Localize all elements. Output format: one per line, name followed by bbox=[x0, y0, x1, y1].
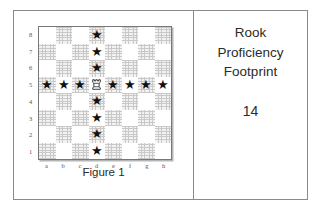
board-square-c1[interactable] bbox=[72, 143, 89, 160]
board-square-c8[interactable] bbox=[72, 27, 89, 44]
rank-label-8: 8 bbox=[24, 26, 37, 43]
board-square-b7[interactable] bbox=[56, 44, 73, 61]
board-square-d2[interactable]: ★ bbox=[89, 126, 106, 143]
board-square-e8[interactable] bbox=[105, 27, 122, 44]
board-square-h3[interactable] bbox=[155, 110, 172, 127]
star-marker-d3: ★ bbox=[91, 112, 103, 125]
board-square-h6[interactable] bbox=[155, 60, 172, 77]
star-marker-d7: ★ bbox=[91, 46, 103, 59]
board-square-e1[interactable] bbox=[105, 143, 122, 160]
rank-label-3: 3 bbox=[24, 110, 37, 127]
board-square-d7[interactable]: ★ bbox=[89, 44, 106, 61]
board-square-h2[interactable] bbox=[155, 126, 172, 143]
footprint-title-line-1: Rook bbox=[198, 23, 303, 43]
star-marker-c5: ★ bbox=[74, 79, 86, 92]
board-square-c5[interactable]: ★ bbox=[72, 77, 89, 94]
board-square-f6[interactable] bbox=[122, 60, 139, 77]
board-square-a3[interactable] bbox=[39, 110, 56, 127]
board-square-h5[interactable]: ★ bbox=[155, 77, 172, 94]
chessboard-block: 87654321 ★★★★★★★★★★★★★★ abcdefgh bbox=[24, 24, 186, 164]
board-square-g6[interactable] bbox=[138, 60, 155, 77]
board-square-b8[interactable] bbox=[56, 27, 73, 44]
board-square-e5[interactable]: ★ bbox=[105, 77, 122, 94]
board-square-c6[interactable] bbox=[72, 60, 89, 77]
footprint-title: RookProficiencyFootprint bbox=[198, 23, 303, 82]
star-marker-d8: ★ bbox=[91, 29, 103, 42]
board-square-c2[interactable] bbox=[72, 126, 89, 143]
chessboard: ★★★★★★★★★★★★★★ bbox=[38, 26, 172, 160]
board-square-a2[interactable] bbox=[39, 126, 56, 143]
board-square-a8[interactable] bbox=[39, 27, 56, 44]
board-square-h8[interactable] bbox=[155, 27, 172, 44]
star-marker-f5: ★ bbox=[124, 79, 136, 92]
board-square-b2[interactable] bbox=[56, 126, 73, 143]
white-rook-icon bbox=[90, 78, 103, 91]
board-square-h1[interactable] bbox=[155, 143, 172, 160]
board-square-d3[interactable]: ★ bbox=[89, 110, 106, 127]
rank-label-5: 5 bbox=[24, 76, 37, 93]
board-square-d8[interactable]: ★ bbox=[89, 27, 106, 44]
figure-caption: Figure 1 bbox=[14, 166, 193, 178]
board-square-f8[interactable] bbox=[122, 27, 139, 44]
footprint-title-line-2: Proficiency bbox=[198, 43, 303, 63]
board-square-f3[interactable] bbox=[122, 110, 139, 127]
board-square-e6[interactable] bbox=[105, 60, 122, 77]
board-square-f1[interactable] bbox=[122, 143, 139, 160]
star-marker-b5: ★ bbox=[58, 79, 70, 92]
star-marker-d6: ★ bbox=[91, 62, 103, 75]
rank-label-7: 7 bbox=[24, 43, 37, 60]
board-square-g4[interactable] bbox=[138, 93, 155, 110]
board-square-g1[interactable] bbox=[138, 143, 155, 160]
board-square-a4[interactable] bbox=[39, 93, 56, 110]
star-marker-d2: ★ bbox=[91, 128, 103, 141]
board-square-d6[interactable]: ★ bbox=[89, 60, 106, 77]
figure-card: 87654321 ★★★★★★★★★★★★★★ abcdefgh Figure … bbox=[13, 10, 308, 200]
rank-label-1: 1 bbox=[24, 143, 37, 160]
board-square-b6[interactable] bbox=[56, 60, 73, 77]
board-square-f5[interactable]: ★ bbox=[122, 77, 139, 94]
board-square-g7[interactable] bbox=[138, 44, 155, 61]
figure-panel: 87654321 ★★★★★★★★★★★★★★ abcdefgh Figure … bbox=[14, 11, 194, 199]
board-square-b5[interactable]: ★ bbox=[56, 77, 73, 94]
footprint-title-line-3: Footprint bbox=[198, 62, 303, 82]
board-square-c4[interactable] bbox=[72, 93, 89, 110]
board-square-e3[interactable] bbox=[105, 110, 122, 127]
board-square-f2[interactable] bbox=[122, 126, 139, 143]
board-square-c3[interactable] bbox=[72, 110, 89, 127]
board-square-g3[interactable] bbox=[138, 110, 155, 127]
rank-label-6: 6 bbox=[24, 60, 37, 77]
rank-label-4: 4 bbox=[24, 93, 37, 110]
star-marker-g5: ★ bbox=[140, 79, 152, 92]
rank-label-2: 2 bbox=[24, 127, 37, 144]
board-square-f7[interactable] bbox=[122, 44, 139, 61]
board-square-b3[interactable] bbox=[56, 110, 73, 127]
board-square-d1[interactable]: ★ bbox=[89, 143, 106, 160]
footprint-panel: RookProficiencyFootprint 14 bbox=[194, 11, 307, 199]
star-marker-a5: ★ bbox=[41, 79, 53, 92]
board-square-b1[interactable] bbox=[56, 143, 73, 160]
rank-label-axis: 87654321 bbox=[24, 26, 37, 160]
board-square-h7[interactable] bbox=[155, 44, 172, 61]
board-square-d4[interactable]: ★ bbox=[89, 93, 106, 110]
board-square-a1[interactable] bbox=[39, 143, 56, 160]
board-square-g2[interactable] bbox=[138, 126, 155, 143]
board-square-b4[interactable] bbox=[56, 93, 73, 110]
board-square-e4[interactable] bbox=[105, 93, 122, 110]
board-square-d5[interactable] bbox=[89, 77, 106, 94]
board-square-a7[interactable] bbox=[39, 44, 56, 61]
board-square-e7[interactable] bbox=[105, 44, 122, 61]
star-marker-d4: ★ bbox=[91, 95, 103, 108]
star-marker-h5: ★ bbox=[157, 79, 169, 92]
board-square-e2[interactable] bbox=[105, 126, 122, 143]
board-square-f4[interactable] bbox=[122, 93, 139, 110]
board-square-c7[interactable] bbox=[72, 44, 89, 61]
board-square-h4[interactable] bbox=[155, 93, 172, 110]
board-square-a6[interactable] bbox=[39, 60, 56, 77]
board-square-g5[interactable]: ★ bbox=[138, 77, 155, 94]
star-marker-e5: ★ bbox=[107, 79, 119, 92]
board-square-a5[interactable]: ★ bbox=[39, 77, 56, 94]
star-marker-d1: ★ bbox=[91, 145, 103, 158]
footprint-value: 14 bbox=[198, 103, 303, 119]
board-square-g8[interactable] bbox=[138, 27, 155, 44]
